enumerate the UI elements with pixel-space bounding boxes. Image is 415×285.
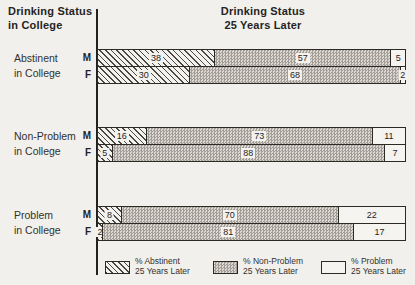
- segment-problem: 11: [372, 127, 406, 145]
- segment-abstinent: 16: [97, 127, 147, 145]
- sex-label: M: [62, 130, 91, 141]
- segment-value: 16: [115, 131, 129, 141]
- bar-row: 30682: [97, 66, 408, 84]
- segment-value: 88: [241, 148, 255, 158]
- chart-title-line1: Drinking Status: [197, 4, 329, 18]
- chart-title: Drinking Status 25 Years Later: [197, 4, 329, 32]
- bar-row: 5887: [97, 144, 408, 162]
- sex-label: F: [62, 226, 91, 237]
- left-axis-title-line2: in College: [8, 18, 92, 32]
- legend-label-line2: 25 Years Later: [135, 267, 190, 277]
- legend-label-non-problem: % Non-Problem25 Years Later: [243, 257, 303, 276]
- left-axis-title-line1: Drinking Status: [8, 4, 92, 18]
- segment-non-problem: 88: [112, 144, 386, 162]
- segment-value: 73: [252, 131, 266, 141]
- segment-non-problem: 57: [214, 49, 391, 67]
- legend-label-abstinent: % Abstinent25 Years Later: [135, 257, 190, 276]
- group-label: Abstinentin College: [14, 51, 61, 81]
- legend-label-problem: % Problem25 Years Later: [351, 257, 406, 276]
- segment-value: 22: [365, 210, 379, 220]
- bar-row: 28117: [97, 223, 408, 241]
- sex-label: M: [62, 52, 91, 63]
- segment-value: 5: [100, 148, 109, 158]
- segment-value: 68: [288, 70, 302, 80]
- segment-problem: 22: [338, 206, 406, 224]
- segment-value: 8: [105, 210, 114, 220]
- segment-abstinent: 8: [97, 206, 122, 224]
- segment-value: 38: [149, 53, 163, 63]
- chart-title-line2: 25 Years Later: [197, 18, 329, 32]
- segment-value: 70: [223, 210, 237, 220]
- segment-problem: 17: [353, 223, 406, 241]
- segment-abstinent: 38: [97, 49, 215, 67]
- segment-value: 17: [373, 227, 387, 237]
- bar-row: 87022: [97, 206, 408, 224]
- segment-non-problem: 68: [189, 66, 400, 84]
- bar-row: 38575: [97, 49, 408, 67]
- figure: Drinking Status in College Drinking Stat…: [0, 0, 415, 285]
- segment-value: 7: [391, 148, 400, 158]
- segment-problem: 7: [384, 144, 406, 162]
- legend-swatch-problem: [321, 261, 346, 274]
- sex-label: F: [62, 69, 91, 80]
- segment-abstinent: 5: [97, 144, 113, 162]
- group-label-line2: in College: [14, 66, 61, 81]
- segment-value: 57: [296, 53, 310, 63]
- legend-label-line2: 25 Years Later: [243, 267, 303, 277]
- legend-swatch-non-problem: [213, 261, 238, 274]
- segment-non-problem: 73: [146, 127, 373, 145]
- legend-label-line2: 25 Years Later: [351, 267, 406, 277]
- sex-label: M: [62, 209, 91, 220]
- left-axis-title: Drinking Status in College: [8, 4, 92, 32]
- segment-value: 11: [382, 131, 395, 141]
- group-label-line1: Abstinent: [14, 51, 61, 66]
- segment-value: 30: [137, 70, 151, 80]
- segment-non-problem: 81: [102, 223, 354, 241]
- segment-value: 2: [398, 70, 407, 80]
- segment-non-problem: 70: [121, 206, 339, 224]
- sex-label: F: [62, 147, 91, 158]
- segment-abstinent: 30: [97, 66, 190, 84]
- segment-value: 81: [221, 227, 235, 237]
- bar-row: 167311: [97, 127, 408, 145]
- group-label-line1: Problem: [14, 208, 61, 223]
- segment-problem: 2: [400, 66, 406, 84]
- legend-swatch-abstinent: [105, 261, 130, 274]
- group-label: Problemin College: [14, 208, 61, 238]
- segment-value: 5: [394, 53, 403, 63]
- group-label-line2: in College: [14, 223, 61, 238]
- segment-problem: 5: [390, 49, 406, 67]
